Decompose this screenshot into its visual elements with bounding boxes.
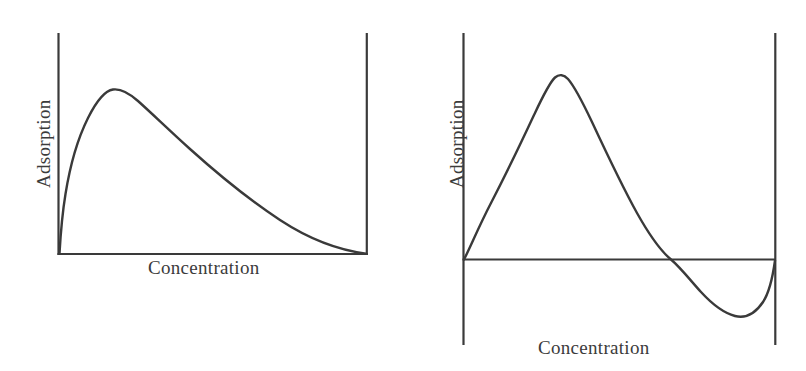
chart-panel-left: Adsorption Concentration [0, 0, 403, 371]
figure-pair: Adsorption Concentration Adsorption Conc… [0, 0, 806, 371]
x-axis-label-right: Concentration [538, 338, 650, 357]
adsorption-curve-left [60, 89, 367, 253]
x-axis-label-left: Concentration [148, 258, 260, 277]
adsorption-curve-right [464, 75, 775, 316]
y-axis-label-right: Adsorption [447, 100, 466, 189]
chart-panel-right: Adsorption Concentration [403, 0, 806, 371]
adsorption-concentration-plot-left [0, 0, 403, 371]
y-axis-label-left: Adsorption [34, 100, 53, 189]
